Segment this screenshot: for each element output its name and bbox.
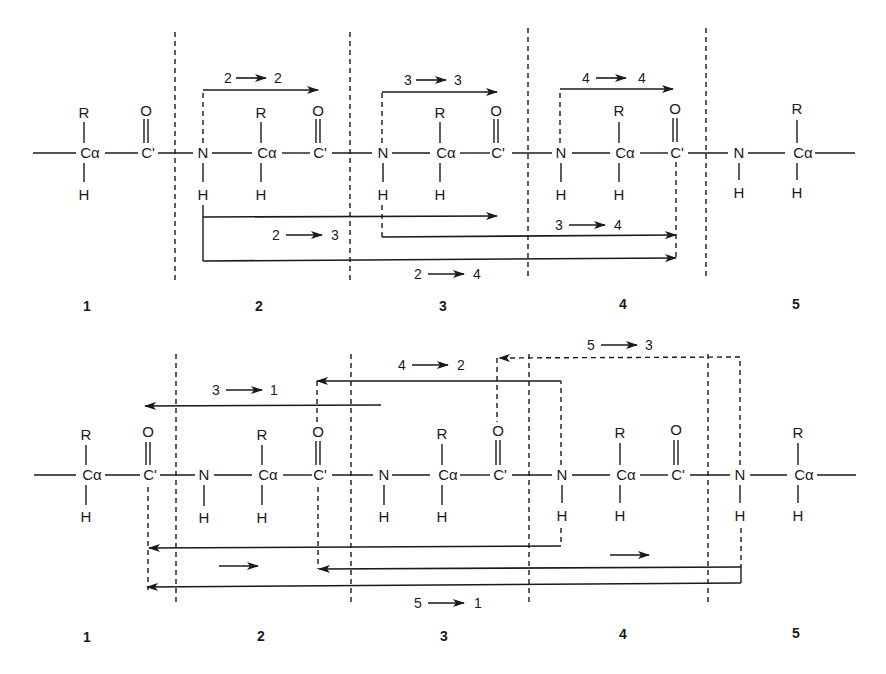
transfer-labels-top: 2 2 3 3 4 4 2 3 3 4 xyxy=(224,70,646,282)
atom-o: O xyxy=(490,102,502,119)
atom-c-alpha: Cα xyxy=(257,144,277,161)
atom-n: N xyxy=(198,144,209,161)
atom-c-alpha: Cα xyxy=(793,144,813,161)
atom-r: R xyxy=(615,424,626,441)
atom-n: N xyxy=(379,466,390,483)
atom-c-prime: C' xyxy=(141,144,155,161)
residue-number-3: 3 xyxy=(439,298,447,314)
residue-number-5: 5 xyxy=(792,296,800,312)
residue-number-1: 1 xyxy=(83,629,91,645)
atom-c-prime: C' xyxy=(143,466,157,483)
atom-r: R xyxy=(256,104,267,121)
residue-number-5: 5 xyxy=(792,625,800,641)
atom-o: O xyxy=(142,423,154,440)
atom-h: H xyxy=(435,186,446,203)
atom-h: H xyxy=(437,508,448,525)
atom-h: H xyxy=(256,186,267,203)
atom-n: N xyxy=(556,144,567,161)
atom-r: R xyxy=(435,104,446,121)
atom-r: R xyxy=(79,104,90,121)
bottom-panel: R Cα H O C' N H R Cα H O C' N H R Cα H O… xyxy=(34,337,856,645)
residue-number-4: 4 xyxy=(619,296,627,312)
svg-text:3: 3 xyxy=(212,382,220,398)
atom-c-prime: C' xyxy=(493,466,507,483)
atom-c-prime: C' xyxy=(670,144,684,161)
transfer-label-5-1: 5 1 xyxy=(414,595,482,611)
svg-text:4: 4 xyxy=(582,70,590,86)
atom-r: R xyxy=(437,425,448,442)
atom-r: R xyxy=(81,426,92,443)
transfer-label-3-4: 3 4 xyxy=(555,217,622,233)
svg-text:3: 3 xyxy=(454,72,462,88)
svg-text:3: 3 xyxy=(645,337,653,353)
atom-h: H xyxy=(557,507,568,524)
svg-text:4: 4 xyxy=(638,70,646,86)
residue-number-2: 2 xyxy=(255,298,263,314)
atom-h: H xyxy=(378,186,389,203)
atom-h: H xyxy=(556,186,567,203)
atom-c-prime: C' xyxy=(313,466,327,483)
residue-numbers-bottom: 1 2 3 4 5 xyxy=(83,625,800,645)
residue-numbers-top: 1 2 3 4 5 xyxy=(83,296,800,314)
atom-o: O xyxy=(312,423,324,440)
svg-text:2: 2 xyxy=(457,357,465,373)
transfer-label-2-4: 2 4 xyxy=(414,266,481,282)
svg-text:2: 2 xyxy=(414,266,422,282)
atom-h: H xyxy=(615,507,626,524)
atom-h: H xyxy=(257,509,268,526)
svg-text:4: 4 xyxy=(398,357,406,373)
atom-n: N xyxy=(378,144,389,161)
svg-text:4: 4 xyxy=(473,266,481,282)
top-panel: R Cα H O C' N H R Cα H O C' N H R Cα H O… xyxy=(33,28,855,314)
atom-h: H xyxy=(614,186,625,203)
atom-c-alpha: Cα xyxy=(438,466,458,483)
svg-text:4: 4 xyxy=(614,217,622,233)
atom-h: H xyxy=(81,508,92,525)
atom-o: O xyxy=(312,102,324,119)
atom-n: N xyxy=(735,466,746,483)
atom-c-alpha: Cα xyxy=(794,466,814,483)
svg-text:3: 3 xyxy=(331,227,339,243)
svg-text:2: 2 xyxy=(272,227,280,243)
atom-r: R xyxy=(614,102,625,119)
atom-n: N xyxy=(734,144,745,161)
atom-o: O xyxy=(669,100,681,117)
residue-number-3: 3 xyxy=(440,628,448,644)
svg-text:5: 5 xyxy=(414,595,422,611)
atom-h: H xyxy=(735,507,746,524)
atom-h: H xyxy=(734,184,745,201)
atom-c-alpha: Cα xyxy=(436,144,456,161)
atom-n: N xyxy=(557,466,568,483)
transfer-labels-bottom: 3 1 4 2 5 3 5 1 xyxy=(212,337,653,611)
transfer-label-4-2: 4 2 xyxy=(398,357,465,373)
atom-c-alpha: Cα xyxy=(616,466,636,483)
residue-number-2: 2 xyxy=(257,628,265,644)
backbone-atoms: R Cα H O C' N H R Cα H O C' N H R Cα H O… xyxy=(79,100,813,203)
peptide-transfer-diagram: R Cα H O C' N H R Cα H O C' N H R Cα H O… xyxy=(0,0,886,674)
atom-h: H xyxy=(199,509,210,526)
atom-h: H xyxy=(793,507,804,524)
residue-number-4: 4 xyxy=(619,626,627,642)
svg-text:1: 1 xyxy=(474,595,482,611)
atom-h: H xyxy=(792,184,803,201)
atom-h: H xyxy=(198,186,209,203)
atom-c-alpha: Cα xyxy=(258,466,278,483)
atom-o: O xyxy=(140,102,152,119)
atom-c-prime: C' xyxy=(671,466,685,483)
transfer-label-3-3: 3 3 xyxy=(404,72,462,88)
atom-c-alpha: Cα xyxy=(82,466,102,483)
atom-c-prime: C' xyxy=(313,144,327,161)
transfer-label-2-3: 2 3 xyxy=(272,227,339,243)
atom-h: H xyxy=(379,508,390,525)
atom-n: N xyxy=(199,466,210,483)
transfer-label-3-1: 3 1 xyxy=(212,382,278,398)
atom-r: R xyxy=(792,100,803,117)
svg-text:2: 2 xyxy=(224,70,232,86)
transfer-label-2-2: 2 2 xyxy=(224,70,282,86)
transfer-label-4-4: 4 4 xyxy=(582,70,646,86)
atom-r: R xyxy=(257,426,268,443)
svg-text:1: 1 xyxy=(270,382,278,398)
transfer-label-5-3: 5 3 xyxy=(587,337,653,353)
svg-text:3: 3 xyxy=(555,217,563,233)
atom-c-alpha: Cα xyxy=(615,144,635,161)
